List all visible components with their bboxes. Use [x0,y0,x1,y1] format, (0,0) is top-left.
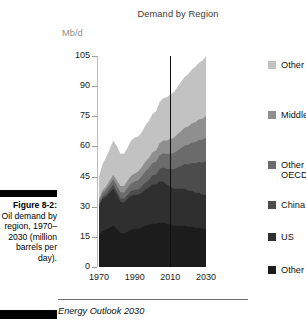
y-axis-line [97,56,98,267]
y-tick-label: 30 [60,201,90,211]
legend-item[interactable]: Other [268,60,304,70]
y-tick-mark [92,177,97,178]
chart-container: Demand by Region Mb/d 0153045607590105 1… [58,0,306,326]
y-tick-label: 90 [60,80,90,90]
legend-label: Middle East [281,110,306,120]
legend-item[interactable]: Middle East [268,110,306,120]
y-tick-label: 15 [60,231,90,241]
y-tick-label: 45 [60,171,90,181]
x-tick-label: 2010 [158,272,182,282]
y-tick-mark [92,207,97,208]
y-tick-mark [92,116,97,117]
source-text: Energy Outlook 2030 [58,306,144,316]
legend-item[interactable]: Other OECD [268,265,306,275]
legend-item[interactable]: China [268,200,305,210]
figure-page: Figure 8-2: Oil demand by region, 1970–2… [0,0,306,326]
y-tick-label: 75 [60,110,90,120]
figure-caption: Figure 8-2: Oil demand by region, 1970–2… [0,200,57,264]
caption-rule-bottom [0,310,57,319]
legend-swatch-icon [268,111,276,119]
y-tick-mark [92,267,97,268]
legend-item[interactable]: Other non- OECD Asia [268,160,306,181]
legend-label: China [281,200,305,210]
chart-title: Demand by Region [118,9,238,19]
y-tick-mark [92,146,97,147]
figure-label: Figure 8-2: [0,200,57,211]
forecast-divider-line [170,56,171,267]
legend-label: Other OECD [281,265,306,275]
y-tick-label: 60 [60,140,90,150]
y-tick-label: 105 [60,50,90,60]
x-tick-label: 2030 [194,272,218,282]
figure-caption-text: Oil demand by region, 1970–2030 (million… [0,211,57,264]
y-tick-mark [92,56,97,57]
y-tick-mark [92,86,97,87]
legend-swatch-icon [268,61,276,69]
legend-swatch-icon [268,161,276,169]
x-tick-label: 1990 [123,272,147,282]
legend-label: US [281,232,294,242]
y-axis-tick-labels: 0153045607590105 [58,0,90,326]
stacked-area-series [99,56,206,267]
legend-swatch-icon [268,201,276,209]
legend-label: Other [281,60,304,70]
legend-item[interactable]: US [268,232,294,242]
legend-label: Other non- OECD Asia [281,160,306,181]
y-tick-mark [92,237,97,238]
x-tick-label: 1970 [87,272,111,282]
area-band [99,223,206,267]
legend-swatch-icon [268,233,276,241]
legend-swatch-icon [268,266,276,274]
caption-rule-top [0,190,57,197]
source-rule [58,299,248,300]
plot-area [99,56,206,267]
y-tick-label: 0 [60,261,90,271]
